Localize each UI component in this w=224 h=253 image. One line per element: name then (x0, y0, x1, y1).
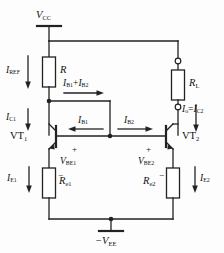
schematic-svg (0, 0, 224, 253)
arrow-ic1-head (25, 124, 31, 132)
arrow-ibsum-head (97, 90, 105, 96)
label-vbe1: VBE1 (60, 157, 76, 167)
label-vbe2: VBE2 (138, 157, 154, 167)
arrow-ie1-head (26, 186, 32, 194)
label-resistor-r: R (60, 65, 66, 76)
label-i-out: Io=IC2 (182, 105, 204, 115)
label-vee: −VEE (95, 236, 116, 247)
label-i-b1: IB1 (78, 116, 88, 126)
arrow-ib2-head (146, 126, 154, 132)
label-i-b2: IB2 (124, 116, 134, 126)
resistor-rl-body (172, 70, 185, 100)
circuit-diagram: VCC −VEE IREF R RL IB1+IB2 IC1 Io=IC2 IB… (0, 0, 224, 253)
label-vt2: VT2 (182, 131, 199, 142)
label-i-c1: IC1 (6, 113, 16, 123)
label-i-e1: IE1 (7, 174, 17, 184)
label-vbe1-plus: + (72, 144, 77, 154)
arrow-ib1-head (68, 126, 76, 132)
label-vbe2-minus: − (159, 170, 164, 180)
resistor-re1-body (43, 168, 56, 198)
arrow-ie2-head (192, 186, 198, 194)
rl-top-terminal-circle (175, 58, 181, 64)
label-i-ref: IREF (6, 66, 20, 76)
label-resistor-rl: RL (189, 78, 199, 89)
resistor-r-body (43, 57, 56, 87)
label-vbe2-plus: + (146, 144, 151, 154)
label-resistor-re2: Re2 (143, 176, 156, 187)
label-i-e2: IE2 (200, 174, 210, 184)
label-vt1: VT1 (10, 131, 27, 142)
label-vcc: VCC (36, 10, 51, 21)
rl-bottom-terminal-circle (175, 104, 181, 110)
arrow-iref-head (25, 82, 31, 90)
node-base-dot (108, 134, 113, 139)
label-i-b-sum: IB1+IB2 (63, 79, 88, 89)
label-resistor-re1: Re1 (59, 176, 72, 187)
resistor-re2-body (167, 168, 180, 198)
